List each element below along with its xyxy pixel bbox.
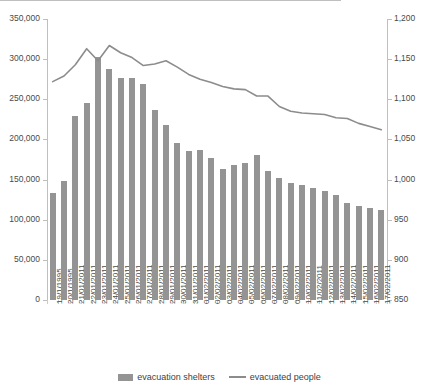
y-axis-left-tick-label: 150,000: [0, 175, 40, 184]
x-axis-tick: [47, 300, 48, 304]
y-axis-left-tick-label: 300,000: [0, 54, 40, 63]
y-axis-right-tick: [388, 139, 392, 140]
y-axis-right-tick: [388, 99, 392, 100]
y-axis-left-tick-label: 50,000: [0, 255, 40, 264]
y-axis-right-tick: [388, 260, 392, 261]
y-axis-right-tick-label: 950: [394, 215, 408, 224]
y-axis-right-tick: [388, 220, 392, 221]
y-axis-left-tick-label: 250,000: [0, 94, 40, 103]
legend-item-evacuated-people: evacuated people: [229, 372, 321, 382]
evacuated-people-polyline: [53, 45, 382, 129]
y-axis-right-tick: [388, 59, 392, 60]
y-axis-right-tick-label: 1,000: [394, 175, 415, 184]
chart-container: 050,000100,000150,000200,000250,000300,0…: [0, 0, 439, 391]
bar-swatch-icon: [118, 374, 133, 381]
y-axis-left-tick-label: 200,000: [0, 134, 40, 143]
y-axis-right-tick: [388, 19, 392, 20]
y-axis-right-tick-label: 900: [394, 255, 408, 264]
y-axis-right-tick-label: 1,050: [394, 134, 415, 143]
y-axis-right-tick-label: 1,200: [394, 14, 415, 23]
y-axis-left-tick-label: 350,000: [0, 14, 40, 23]
y-axis-left-tick-label: 100,000: [0, 215, 40, 224]
chart-legend: evacuation shelters evacuated people: [0, 372, 439, 382]
legend-label-evacuation-shelters: evacuation shelters: [137, 372, 215, 382]
y-axis-left-tick-label: 0: [0, 295, 40, 304]
y-axis-right-tick-label: 1,100: [394, 94, 415, 103]
legend-label-evacuated-people: evacuated people: [250, 372, 321, 382]
y-axis-right-tick: [388, 180, 392, 181]
y-axis-right-tick-label: 1,150: [394, 54, 415, 63]
line-swatch-icon: [229, 376, 246, 378]
line-series-evacuated-people: [47, 19, 387, 300]
legend-item-evacuation-shelters: evacuation shelters: [118, 372, 215, 382]
chart-title: [0, 0, 439, 3]
y-axis-right-tick-label: 850: [394, 295, 408, 304]
y-axis-right-line: [387, 19, 388, 300]
